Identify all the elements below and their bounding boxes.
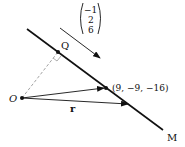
vector-line-diagram: Q O (9, −9, −16) r M −1 2 6 (0, 0, 185, 147)
vector-component-3: 6 (88, 25, 94, 35)
label-q: Q (61, 40, 69, 51)
label-point: (9, −9, −16) (112, 83, 168, 93)
origin-dot (20, 96, 24, 100)
vector-component-1: −1 (84, 5, 97, 15)
given-point-dot (104, 86, 108, 90)
perpendicular-dashed (22, 52, 58, 98)
direction-vector: −1 2 6 (81, 3, 101, 35)
vector-to-point (22, 88, 104, 98)
label-r: r (70, 103, 76, 114)
point-q-dot (56, 50, 60, 54)
label-m: M (167, 132, 177, 143)
line-m (27, 29, 163, 130)
vector-component-2: 2 (88, 15, 94, 25)
label-o: O (9, 93, 17, 104)
